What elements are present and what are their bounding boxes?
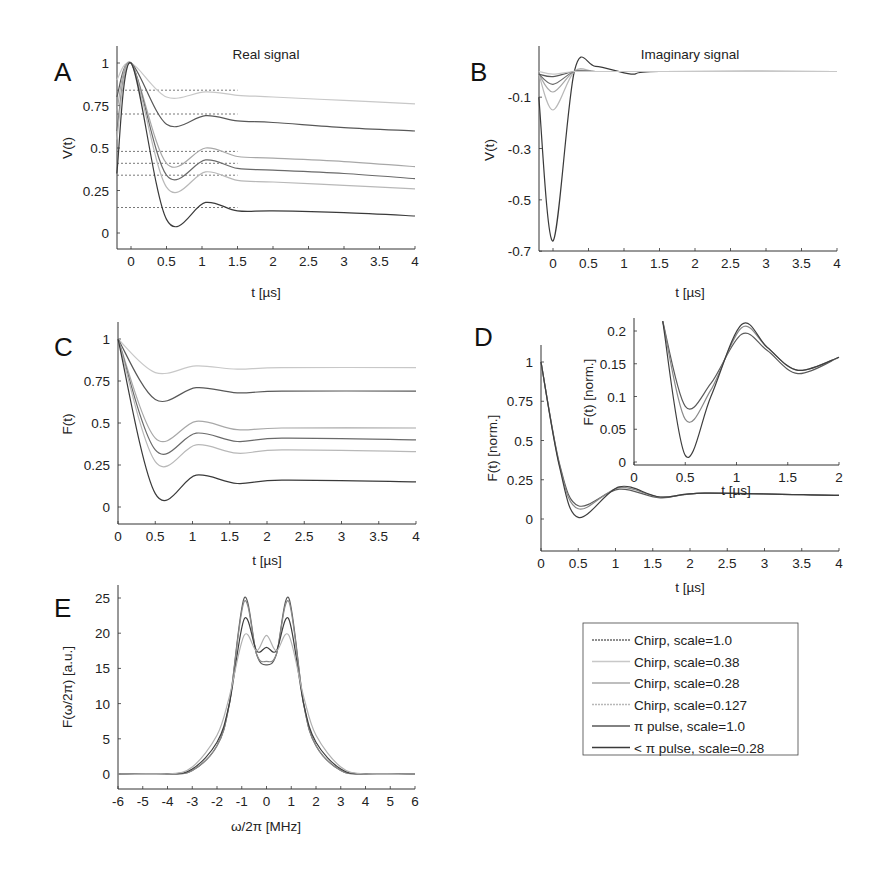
series-line xyxy=(118,601,415,775)
panel-b-xlabel: t [µs] xyxy=(675,285,705,300)
svg-text:0.25: 0.25 xyxy=(84,458,110,473)
legend-label: < π pulse, scale=0.28 xyxy=(634,741,764,756)
svg-text:0: 0 xyxy=(537,556,545,571)
legend-label: Chirp, scale=1.0 xyxy=(634,633,732,648)
panel-c-axes: 00.511.522.533.5400.250.50.751 xyxy=(84,322,421,544)
svg-text:0.05: 0.05 xyxy=(600,422,626,437)
series-line xyxy=(118,339,416,467)
svg-text:25: 25 xyxy=(95,591,110,606)
panel-e-axes: -6-5-4-3-2-101234560510152025 xyxy=(95,585,419,809)
panel-d: D F(t) [norm.] t [µs] 00.511.522.533.540… xyxy=(474,318,843,595)
legend-label: π pulse, scale=1.0 xyxy=(634,719,745,734)
svg-text:2.5: 2.5 xyxy=(295,529,314,544)
svg-text:1: 1 xyxy=(101,56,109,71)
svg-text:2: 2 xyxy=(263,529,271,544)
svg-text:2: 2 xyxy=(269,254,277,269)
series-line xyxy=(117,63,415,227)
svg-text:0.75: 0.75 xyxy=(84,374,110,389)
svg-text:0.5: 0.5 xyxy=(514,434,533,449)
svg-text:-0.1: -0.1 xyxy=(508,90,531,105)
svg-text:-0.3: -0.3 xyxy=(508,142,531,157)
svg-text:0: 0 xyxy=(263,794,271,809)
svg-text:0.75: 0.75 xyxy=(83,99,109,114)
svg-text:-0.5: -0.5 xyxy=(508,193,531,208)
series-line xyxy=(117,63,415,104)
panel-d-ylabel: F(t) [norm.] xyxy=(485,415,500,482)
svg-text:1: 1 xyxy=(102,332,110,347)
panel-d-inset: F(t) [norm.] t [µs] 00.511.5200.050.10.1… xyxy=(581,318,843,498)
svg-text:0.5: 0.5 xyxy=(91,416,110,431)
svg-text:0: 0 xyxy=(549,256,557,271)
inset-ylabel: F(t) [norm.] xyxy=(581,359,596,426)
legend-label: Chirp, scale=0.28 xyxy=(634,676,739,691)
series-line xyxy=(118,339,416,402)
svg-text:1: 1 xyxy=(612,556,620,571)
panel-a-title: Real signal xyxy=(233,47,300,62)
svg-text:3: 3 xyxy=(762,256,770,271)
legend-label: Chirp, scale=0.38 xyxy=(634,655,739,670)
svg-text:0.5: 0.5 xyxy=(90,141,109,156)
series-line xyxy=(118,339,416,501)
svg-text:4: 4 xyxy=(411,254,419,269)
panel-a-curves xyxy=(117,62,415,227)
svg-text:10: 10 xyxy=(95,697,110,712)
svg-text:1: 1 xyxy=(287,794,295,809)
svg-text:3.5: 3.5 xyxy=(792,256,811,271)
svg-text:1.5: 1.5 xyxy=(778,470,797,485)
panel-letter-e: E xyxy=(54,593,71,623)
svg-text:4: 4 xyxy=(833,256,841,271)
svg-text:0: 0 xyxy=(114,529,122,544)
svg-text:0.25: 0.25 xyxy=(83,184,109,199)
series-line xyxy=(118,339,416,374)
svg-text:-3: -3 xyxy=(186,794,198,809)
legend: Chirp, scale=1.0Chirp, scale=0.38Chirp, … xyxy=(583,623,798,756)
svg-text:3: 3 xyxy=(337,794,345,809)
svg-text:0: 0 xyxy=(101,226,109,241)
svg-text:0: 0 xyxy=(630,470,638,485)
panel-letter-c: C xyxy=(54,332,73,362)
panel-b-curves xyxy=(539,57,837,241)
panel-b-title: Imaginary signal xyxy=(641,47,739,62)
svg-text:-0.7: -0.7 xyxy=(508,244,531,259)
svg-text:0.75: 0.75 xyxy=(507,394,533,409)
svg-text:1.5: 1.5 xyxy=(643,556,662,571)
series-line xyxy=(539,70,837,92)
svg-text:-2: -2 xyxy=(211,794,223,809)
panel-e-spectrum: E F(ω/2π) [a.u.] ω/2π [MHz] -6-5-4-3-2-1… xyxy=(54,585,419,834)
series-line xyxy=(539,57,837,241)
svg-text:-4: -4 xyxy=(161,794,173,809)
panel-a-ylabel: V(t) xyxy=(60,137,75,159)
panel-letter-b: B xyxy=(470,57,487,87)
panel-c: C F(t) t [µs] 00.511.522.533.5400.250.50… xyxy=(54,322,420,568)
panel-d-xlabel: t [µs] xyxy=(675,580,705,595)
svg-text:6: 6 xyxy=(411,794,419,809)
svg-text:1: 1 xyxy=(620,256,628,271)
panel-b-imaginary-signal: B Imaginary signal V(t) t [µs] 00.511.52… xyxy=(470,46,841,300)
svg-text:0.15: 0.15 xyxy=(600,357,626,372)
svg-text:2: 2 xyxy=(691,256,699,271)
svg-text:4: 4 xyxy=(412,529,420,544)
panel-e-curves xyxy=(118,597,415,774)
series-line xyxy=(117,62,415,179)
svg-text:0.25: 0.25 xyxy=(507,473,533,488)
svg-text:5: 5 xyxy=(386,794,394,809)
panel-c-curves xyxy=(118,339,416,501)
svg-text:2.5: 2.5 xyxy=(299,254,318,269)
svg-text:4: 4 xyxy=(362,794,370,809)
svg-text:3: 3 xyxy=(761,556,769,571)
svg-text:3.5: 3.5 xyxy=(369,529,388,544)
svg-text:0.5: 0.5 xyxy=(676,470,695,485)
series-line xyxy=(118,339,416,442)
svg-text:5: 5 xyxy=(102,732,110,747)
svg-text:15: 15 xyxy=(95,661,110,676)
svg-text:2.5: 2.5 xyxy=(721,256,740,271)
svg-text:-6: -6 xyxy=(112,794,124,809)
svg-text:1: 1 xyxy=(198,254,206,269)
panel-c-ylabel: F(t) xyxy=(60,414,75,435)
panel-b-ylabel: V(t) xyxy=(482,139,497,161)
svg-text:0.5: 0.5 xyxy=(569,556,588,571)
panel-e-xlabel: ω/2π [MHz] xyxy=(231,819,301,834)
panel-a-xlabel: t [µs] xyxy=(251,285,281,300)
svg-text:0: 0 xyxy=(127,254,135,269)
svg-text:3: 3 xyxy=(338,529,346,544)
